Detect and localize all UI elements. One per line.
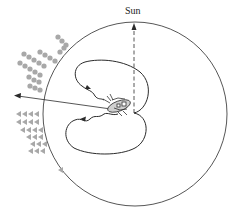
food-arrowhead-icon: [14, 93, 21, 99]
sun-arrowhead-icon: [132, 23, 137, 30]
waggle-dance-diagram: [0, 0, 237, 217]
hive-circle: [43, 22, 227, 206]
dance-loop-lower: [66, 113, 146, 154]
sun-label: Sun: [125, 6, 141, 16]
loop-arrow-lower-icon: [80, 117, 86, 122]
follower-arrows: [16, 111, 63, 173]
follower-dots: [17, 34, 68, 92]
food-direction-line: [18, 96, 118, 110]
dancer-bee-icon: [103, 94, 132, 116]
loop-arrow-upper-icon: [85, 85, 91, 89]
